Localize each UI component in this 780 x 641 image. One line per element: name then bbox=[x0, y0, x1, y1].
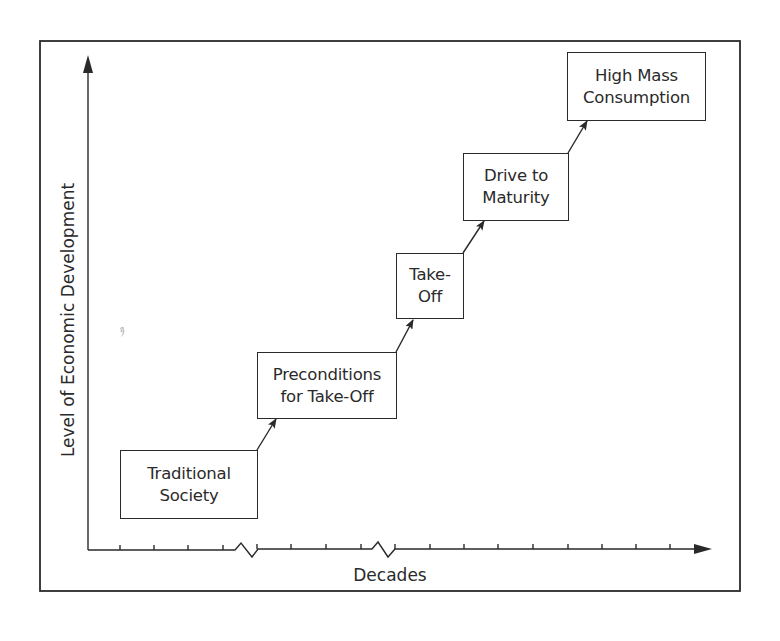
y-axis-title: Level of Economic Development bbox=[58, 183, 78, 457]
stage-high-mass-consumption: High Mass Consumption bbox=[567, 52, 706, 121]
arrow-takeoff-to-maturity bbox=[463, 221, 484, 253]
stage-label: Take- Off bbox=[409, 264, 451, 308]
stage-preconditions-for-take-off: Preconditions for Take-Off bbox=[257, 352, 397, 419]
y-axis bbox=[83, 55, 93, 550]
y-axis-arrow-icon bbox=[83, 55, 93, 73]
diagram-canvas: ཉ Traditional Society Preconditions for … bbox=[0, 0, 780, 641]
arrow-preconditions-to-takeoff bbox=[396, 320, 413, 352]
stage-traditional-society: Traditional Society bbox=[120, 450, 258, 519]
stage-label: Traditional Society bbox=[147, 463, 231, 507]
arrow-maturity-to-consumption bbox=[568, 121, 587, 153]
stage-drive-to-maturity: Drive to Maturity bbox=[463, 153, 569, 221]
arrow-traditional-to-preconditions bbox=[257, 419, 276, 450]
stage-label: Preconditions for Take-Off bbox=[273, 364, 382, 408]
stage-label: High Mass Consumption bbox=[583, 65, 690, 109]
x-axis-arrow-icon bbox=[694, 544, 712, 554]
x-axis-title: Decades bbox=[340, 565, 440, 585]
scan-artifact: ཉ bbox=[120, 326, 125, 337]
stage-take-off: Take- Off bbox=[396, 253, 464, 319]
stage-label: Drive to Maturity bbox=[482, 165, 549, 209]
x-axis bbox=[88, 542, 712, 557]
